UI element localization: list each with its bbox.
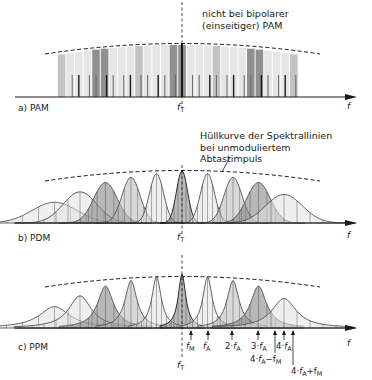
spectrum-diagram (0, 0, 372, 380)
ppm-marker-arrow-icon (189, 330, 193, 335)
pam-spectral-band (58, 54, 66, 97)
pam-spectral-band (273, 52, 281, 97)
pam-spectral-band (66, 53, 74, 97)
marker-fA: fA (203, 341, 210, 353)
pam-annotation-line-1: nicht bei bipolarer (202, 8, 289, 20)
ppm-marker-arrow-icon (282, 330, 286, 335)
pam-spectral-band (290, 54, 298, 97)
pam-spectral-band (118, 47, 126, 97)
panel-label-pam: a) PAM (18, 103, 49, 114)
center-freq-label-pdm: fT (177, 232, 184, 246)
panel-label-ppm: c) PPM (18, 342, 48, 353)
envelope-annotation-line-2: bei unmoduliertem (200, 142, 332, 154)
envelope-annotation-line-1: Hüllkurve der Spektrallinien (200, 130, 332, 142)
envelope-annotation-line-3: Abtastimpuls (200, 153, 332, 165)
ppm-marker-arrow-icon (291, 330, 295, 335)
pam-spectral-band (135, 46, 143, 97)
axis-label-f-pam: f (347, 101, 350, 112)
center-freq-label-pam: fT (177, 102, 184, 116)
marker-4fA-plus-fM: 4·fA+fM (291, 366, 322, 378)
marker-fM: fM (186, 341, 195, 353)
ppm-marker-arrow-icon (273, 330, 277, 335)
marker-3fA: 3·fA (251, 341, 267, 353)
marker-2fA: 2·fA (225, 341, 241, 353)
pam-spectral-band (170, 45, 178, 97)
pam-spectral-band (84, 51, 92, 97)
envelope-annotation: Hüllkurve der Spektrallinien bei unmodul… (200, 130, 332, 165)
pam-spectral-band (238, 48, 246, 97)
pdm-axis-arrow-icon (345, 220, 357, 226)
pam-axis-arrow-icon (345, 94, 357, 100)
ppm-marker-arrow-icon (206, 330, 210, 335)
axis-label-f-pdm: f (347, 230, 350, 241)
panel-label-pdm: b) PDM (18, 233, 50, 244)
pam-annotation-line-2: (einseitiger) PAM (202, 20, 289, 32)
ppm-axis-arrow-icon (345, 325, 357, 331)
ppm-marker-arrow-icon (256, 330, 260, 335)
marker-4fA-minus-fM: 4·fA−fM (250, 354, 281, 366)
center-freq-label-ppm: fT (177, 360, 184, 374)
ppm-marker-arrow-icon (230, 330, 234, 335)
pam-spectral-band (187, 45, 195, 97)
pam-spectral-band (221, 47, 229, 97)
marker-4fA: 4·fA (276, 341, 292, 353)
axis-label-f-ppm: f (347, 338, 350, 349)
pam-annotation: nicht bei bipolarer (einseitiger) PAM (202, 8, 289, 31)
